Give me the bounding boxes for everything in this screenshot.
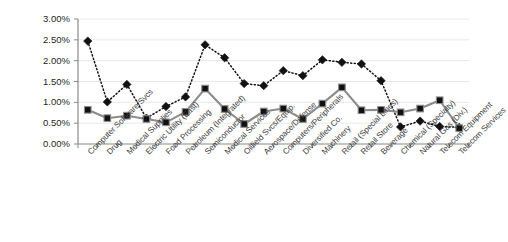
y-axis-tick-label: 3.00% <box>24 14 70 24</box>
y-axis-tick-label: 2.50% <box>24 35 70 45</box>
data-point-square <box>358 107 365 114</box>
y-axis-tick-label: 2.00% <box>24 56 70 66</box>
data-point-square <box>397 109 404 116</box>
data-point-square <box>143 116 150 123</box>
data-point-square <box>104 115 111 122</box>
y-axis-tick-label: 1.00% <box>24 97 70 107</box>
data-point-square <box>202 85 209 92</box>
data-point-square <box>84 107 91 114</box>
data-point-diamond <box>201 41 209 49</box>
data-point-diamond <box>84 37 92 45</box>
y-axis-tick-label: 0.00% <box>24 139 70 149</box>
y-axis-tick-label: 1.50% <box>24 77 70 87</box>
data-point-square <box>339 84 346 91</box>
data-point-diamond <box>338 58 346 66</box>
data-point-diamond <box>260 81 268 89</box>
data-point-square <box>436 97 443 104</box>
y-axis-tick-label: 0.50% <box>24 118 70 128</box>
data-point-diamond <box>181 93 189 101</box>
data-point-square <box>417 105 424 112</box>
